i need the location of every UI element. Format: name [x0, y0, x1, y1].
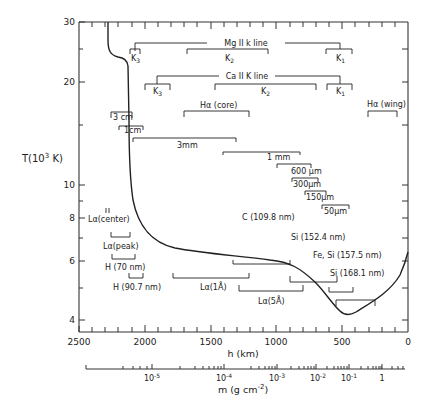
m-tick-1e-1: 10-1: [341, 372, 357, 383]
label-ca-K2: K2: [261, 87, 270, 97]
y-tick-10: 10: [64, 180, 76, 190]
x-axis-label: h (km): [227, 348, 258, 359]
label-fe-si-157-5nm: Fe, Si (157.5 nm): [313, 251, 382, 260]
temperature-height-chart: 30 20 10 8 6 4 T(103 K) 2500 2000 1500 1…: [0, 0, 431, 409]
x-tick-2000: 2000: [134, 337, 157, 347]
label-50um: 50µm: [324, 207, 347, 216]
label-600um: 600 µm: [291, 167, 322, 176]
m-axis: [86, 364, 405, 369]
label-si-168-1nm: Si (168.1 nm): [330, 269, 384, 278]
x-tick-0: 0: [405, 337, 411, 347]
m-axis-label: m (g cm-2): [218, 383, 268, 395]
label-mg-ii-k-line: Mg II k line: [224, 39, 267, 48]
label-si-152-4nm: Si (152.4 nm): [291, 233, 345, 242]
m-tick-1: 1: [379, 374, 384, 383]
y-axis-tick-labels: 30 20 10 8 6 4: [64, 17, 76, 325]
label-k3: K3: [131, 54, 140, 64]
x-tick-1500: 1500: [200, 337, 223, 347]
x-tick-500: 500: [333, 337, 350, 347]
m-tick-1e-2: 10-2: [310, 372, 326, 383]
label-halpha-core: Hα (core): [200, 101, 237, 110]
label-k2: K2: [225, 54, 234, 64]
label-ca-ii-k-line: Ca II K line: [226, 72, 269, 81]
label-1cm: 1cm: [124, 126, 141, 135]
annotation-labels: Mg II k line K3 K2 K1 Ca II K line K3 K2…: [88, 39, 406, 306]
label-1mm: 1 mm: [267, 153, 290, 162]
y-tick-30: 30: [64, 17, 76, 27]
label-lyman-alpha-center: Lα(center): [88, 215, 130, 224]
x-tick-2500: 2500: [68, 337, 91, 347]
label-150um: 150µm: [306, 193, 334, 202]
x-tick-1000: 1000: [265, 337, 288, 347]
label-k1: K1: [336, 54, 345, 64]
label-ca-K3: K3: [153, 87, 162, 97]
label-lyman-alpha-peak: Lα(peak): [103, 242, 139, 251]
label-lyman-alpha-5A: Lα(5Å): [258, 295, 285, 306]
m-axis-tick-labels: 10-5 10-4 10-3 10-2 10-1 1: [144, 372, 385, 383]
label-3cm: 3 cm: [113, 113, 133, 122]
y-tick-20: 20: [64, 77, 76, 87]
label-3mm: 3mm: [177, 141, 198, 150]
m-tick-1e-4: 10-4: [216, 372, 232, 383]
annotation-brackets: [106, 43, 397, 306]
label-c-109-8nm: C (109.8 nm): [242, 213, 295, 222]
y-tick-6: 6: [69, 256, 75, 266]
m-tick-1e-5: 10-5: [144, 372, 160, 383]
y-tick-4: 4: [69, 315, 75, 325]
x-axis-tick-labels: 2500 2000 1500 1000 500 0: [68, 337, 412, 347]
label-lyman-alpha-1A: Lα(1Å): [200, 281, 227, 292]
y-axis-label: T(103 K): [21, 152, 63, 164]
y-tick-8: 8: [69, 213, 75, 223]
m-tick-1e-3: 10-3: [269, 372, 285, 383]
label-ca-K1: K1: [336, 87, 345, 97]
label-h-90-7nm: H (90.7 nm): [113, 283, 161, 292]
label-h-70nm: H (70 nm): [105, 263, 145, 272]
label-300um: 300µm: [293, 180, 321, 189]
label-halpha-wing: Hα (wing): [367, 100, 406, 109]
